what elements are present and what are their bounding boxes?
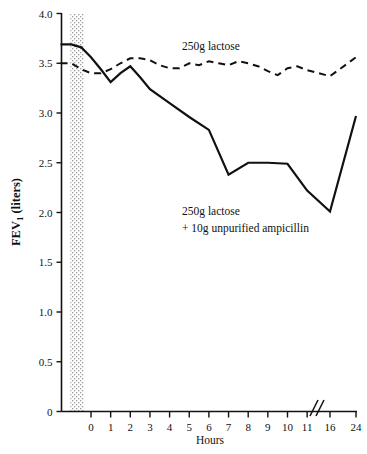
x-tick-label: 10 <box>282 421 294 433</box>
y-tick-label: 3.0 <box>39 107 53 119</box>
y-tick-label: 0.5 <box>39 356 53 368</box>
annotation-ampicillin-line2: + 10g unpurified ampicillin <box>182 222 309 235</box>
y-axis-title-group: FEV1 (liters) <box>9 178 25 246</box>
x-tick-label: 9 <box>265 421 271 433</box>
annotation-ampicillin-line1: 250g lactose <box>182 205 240 218</box>
x-tick-label: 4 <box>167 421 173 433</box>
x-tick-label: 24 <box>351 421 363 433</box>
y-tick-label: 0 <box>47 406 53 418</box>
y-tick-label: 2.0 <box>39 207 53 219</box>
y-tick-label: 4.0 <box>39 8 53 20</box>
x-tick-label: 11 <box>302 421 313 433</box>
y-tick-label: 2.5 <box>39 157 53 169</box>
y-tick-label-group: 00.51.01.52.02.53.03.54.0 <box>39 8 53 418</box>
chart-canvas: 00.51.01.52.02.53.03.54.0 01234567891011… <box>0 0 367 454</box>
y-axis-title: FEV1 (liters) <box>9 178 25 246</box>
annotation-250g-lactose: 250g lactose <box>182 40 240 53</box>
x-tick-label: 16 <box>325 421 337 433</box>
x-tick-label: 1 <box>108 421 114 433</box>
y-tick-label: 1.5 <box>39 256 53 268</box>
x-tick-label: 7 <box>226 421 232 433</box>
y-axis-title-unit: (liters) <box>9 178 23 217</box>
y-axis-title-main: FEV <box>9 221 23 246</box>
x-tick-label: 3 <box>147 421 153 433</box>
x-tick-label: 6 <box>206 421 212 433</box>
shaded-exposure-band <box>70 14 84 411</box>
x-tick-label-group: 012345678910111624 <box>88 421 362 433</box>
chart-figure: 00.51.01.52.02.53.03.54.0 01234567891011… <box>0 0 367 454</box>
y-tick-label: 3.5 <box>39 57 53 69</box>
x-tick-label: 8 <box>245 421 251 433</box>
x-tick-label: 0 <box>88 421 94 433</box>
y-tick-label: 1.0 <box>39 306 53 318</box>
x-tick-label: 5 <box>187 421 193 433</box>
series-line-lactose-ampicillin <box>61 44 356 211</box>
x-tick-label: 2 <box>128 421 134 433</box>
x-axis-title: Hours <box>196 434 225 446</box>
